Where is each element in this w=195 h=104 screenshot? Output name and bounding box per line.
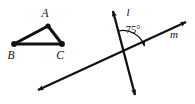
vertex-label-c: C — [56, 49, 64, 61]
line-m-label: m — [170, 28, 178, 40]
vertex-label-b: B — [7, 49, 14, 61]
angle-measure-label: 75° — [126, 24, 141, 35]
geometry-figure: A B C m l 75° — [0, 0, 195, 104]
vertex-dot-b — [11, 41, 17, 47]
vertex-dot-c — [59, 41, 65, 47]
edge-ac — [48, 26, 62, 44]
vertex-dot-a — [45, 23, 50, 28]
vertex-label-a: A — [40, 7, 49, 19]
triangle-abc: A B C — [7, 7, 64, 61]
figure-canvas: A B C m l 75° — [0, 0, 195, 104]
edge-ab — [14, 26, 48, 44]
line-l-label: l — [126, 6, 129, 18]
line-l: l — [113, 6, 135, 95]
